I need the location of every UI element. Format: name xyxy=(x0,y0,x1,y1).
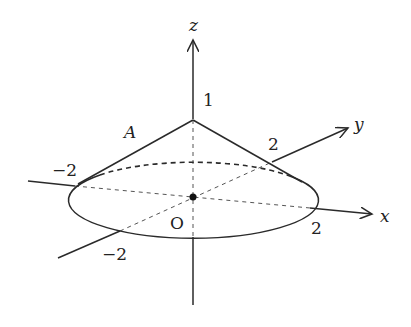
y-neg-tick-label: −2 xyxy=(102,244,127,264)
x-axis xyxy=(28,181,372,214)
point-a-label: A xyxy=(122,122,136,142)
origin-label: O xyxy=(170,213,184,233)
x-axis-label: x xyxy=(380,206,390,226)
x-neg-tick-label: −2 xyxy=(52,160,77,180)
x-pos-tick-label: 2 xyxy=(311,218,322,238)
origin-point xyxy=(190,194,197,201)
cone-diagram: z 1 A y 2 −2 x 2 O −2 xyxy=(0,0,411,327)
y-axis-label: y xyxy=(353,114,364,134)
z-axis-label: z xyxy=(188,15,199,35)
y-pos-tick-label: 2 xyxy=(268,134,279,154)
apex-height-label: 1 xyxy=(203,90,214,110)
